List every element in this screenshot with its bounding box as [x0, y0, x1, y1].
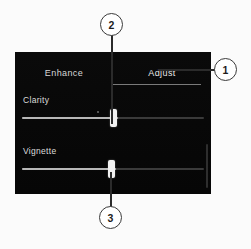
tab-bar: Enhance Adjust [15, 60, 211, 86]
tab-enhance-label: Enhance [45, 69, 83, 78]
slider-tick-clarity [97, 111, 99, 113]
callout-2-leader-line [111, 34, 113, 124]
slider-track-clarity[interactable] [22, 117, 118, 119]
tab-adjust[interactable]: Adjust [113, 60, 211, 86]
callout-2-number: 2 [109, 19, 115, 31]
tab-adjust-underline [111, 84, 201, 85]
callout-2: 2 [100, 13, 123, 36]
callout-3-leader-line [110, 172, 112, 208]
slider-label-clarity: Clarity [23, 96, 49, 105]
figure-root: Enhance Adjust Clarity Vignette 1 2 [0, 0, 251, 249]
tab-enhance[interactable]: Enhance [15, 60, 113, 86]
slider-track-vignette[interactable] [22, 168, 116, 170]
callout-1-number: 1 [223, 64, 229, 76]
callout-1-leader-line [158, 69, 216, 71]
slider-label-vignette: Vignette [23, 147, 56, 156]
panel-scrollbar[interactable] [206, 144, 208, 188]
callout-3: 3 [99, 206, 122, 229]
photo-editor-panel: Enhance Adjust Clarity Vignette [15, 52, 211, 194]
callout-3-number: 3 [108, 212, 114, 224]
callout-1: 1 [214, 58, 237, 81]
